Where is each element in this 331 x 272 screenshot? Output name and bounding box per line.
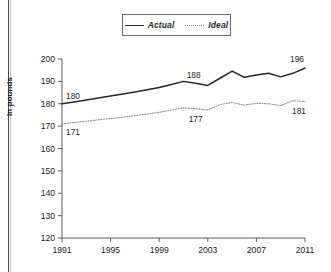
series-line-actual — [62, 68, 305, 104]
y-tick-label: 190 — [41, 76, 56, 86]
data-point-annotations: 180188196171177181 — [66, 54, 306, 137]
data-label-188: 188 — [187, 70, 201, 80]
y-tick-label: 180 — [41, 99, 56, 109]
chart-page: Actual Ideal In pounds 12013014015016017… — [0, 0, 331, 272]
x-axis-ticks: 199119951999200320072011 — [52, 238, 314, 255]
data-label-177: 177 — [189, 114, 203, 124]
x-tick-label: 1999 — [150, 245, 169, 255]
data-label-196: 196 — [290, 54, 304, 64]
y-axis-ticks: 120130140150160170180190200 — [41, 54, 62, 243]
x-tick-label: 2003 — [198, 245, 217, 255]
chart-svg: 120130140150160170180190200 199119951999… — [0, 0, 331, 272]
y-tick-label: 140 — [41, 188, 56, 198]
y-tick-label: 200 — [41, 54, 56, 64]
cropped-caption-strip — [40, 263, 320, 272]
data-label-180: 180 — [66, 91, 80, 101]
y-tick-label: 160 — [41, 144, 56, 154]
data-label-181: 181 — [292, 106, 306, 116]
x-tick-label: 1995 — [101, 245, 120, 255]
x-tick-label: 2007 — [247, 245, 266, 255]
data-label-171: 171 — [66, 127, 80, 137]
y-tick-label: 120 — [41, 233, 56, 243]
plot-area: 120130140150160170180190200 199119951999… — [0, 0, 331, 272]
x-tick-label: 2011 — [296, 245, 315, 255]
y-tick-label: 170 — [41, 121, 56, 131]
x-tick-label: 1991 — [52, 245, 71, 255]
series-line-ideal — [62, 101, 305, 124]
y-tick-label: 150 — [41, 166, 56, 176]
y-tick-label: 130 — [41, 211, 56, 221]
